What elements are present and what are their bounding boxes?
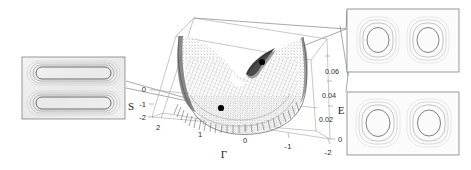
s-tick-label-m1: -1 <box>139 100 146 109</box>
e-tick-label-0: 0 <box>338 135 342 144</box>
s-tick-label-0: 0 <box>142 85 146 94</box>
surface-stipple-lower <box>176 96 306 136</box>
left-inset-frame <box>22 57 125 119</box>
s-axis-label: S <box>128 100 134 112</box>
gamma-tick-label-1: 1 <box>198 130 202 139</box>
lower-marker-dot[interactable] <box>218 105 224 111</box>
gamma-tick-m2 <box>328 139 330 144</box>
top-right-inset-frame <box>347 9 459 72</box>
upper-marker-dot[interactable] <box>259 59 265 65</box>
left-inset[interactable] <box>22 57 125 119</box>
wireframe-right-edge <box>327 39 330 139</box>
surface-plot <box>170 30 315 140</box>
e-tick-label-002: 0.02 <box>319 115 333 124</box>
e-tick-label-006: 0.06 <box>325 67 339 76</box>
figure-root: 2 1 0 -1 -2 Γ 0 -1 -2 S <box>0 0 471 170</box>
e-axis-label: E <box>338 104 345 116</box>
gamma-axis-label: Γ <box>221 148 227 160</box>
e-tick-label-004: 0.04 <box>322 91 336 100</box>
figure-canvas: 2 1 0 -1 -2 Γ 0 -1 -2 S <box>0 0 471 170</box>
wireframe-right-inner-edge <box>311 60 316 131</box>
wireframe-left-inner-edge <box>152 36 176 117</box>
gamma-tick-label-m2: -2 <box>325 148 332 157</box>
top-right-inset[interactable] <box>347 9 459 72</box>
s-tick-label-m2: -2 <box>139 113 146 122</box>
leader-line-top-right <box>194 10 347 29</box>
gamma-tick-label-0: 0 <box>243 136 247 145</box>
bottom-right-inset[interactable] <box>347 92 459 155</box>
gamma-tick-label-2: 2 <box>156 123 160 132</box>
e-axis: 0 0.02 0.04 0.06 E <box>319 56 345 144</box>
gamma-tick-m1 <box>288 133 289 138</box>
gamma-tick-label-m1: -1 <box>285 142 292 151</box>
s-axis: 0 -1 -2 S <box>128 85 155 122</box>
